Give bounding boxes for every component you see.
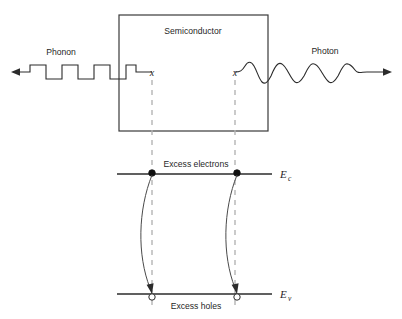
photon-arrow-head — [383, 68, 392, 75]
conduction-band-subscript: c — [288, 174, 292, 183]
hole-circle-left — [149, 294, 155, 300]
hole-circle-right — [234, 294, 240, 300]
recombination-curve-left — [141, 175, 152, 288]
band-diagram-svg: Phonon Photon x x Semiconductor E c Exce… — [0, 0, 402, 319]
excess-holes-label: Excess holes — [171, 301, 222, 311]
phonon-label: Phonon — [46, 47, 76, 57]
phonon-arrow-head — [11, 68, 20, 75]
semiconductor-label: Semiconductor — [164, 26, 221, 36]
figure-canvas: Phonon Photon x x Semiconductor E c Exce… — [0, 0, 402, 319]
left-x-marker: x — [149, 67, 155, 78]
valence-band-symbol: E — [279, 288, 287, 300]
photon-sine-wave — [235, 62, 386, 83]
conduction-band-symbol: E — [279, 168, 287, 180]
excess-electrons-label: Excess electrons — [164, 159, 229, 169]
phonon-square-wave — [17, 65, 152, 79]
right-x-marker: x — [232, 67, 238, 78]
photon-label: Photon — [311, 46, 338, 56]
valence-band-subscript: v — [288, 294, 292, 303]
